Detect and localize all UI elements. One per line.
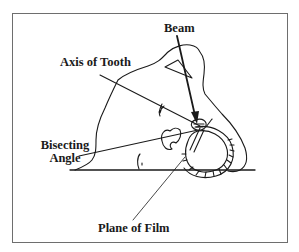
- film-tab: [206, 119, 212, 127]
- cheek-mark: [138, 154, 140, 169]
- axis-of-tooth-label: Axis of Tooth: [60, 56, 131, 69]
- plane-of-film-label: Plane of Film: [98, 222, 170, 235]
- bisecting-angle-label-line2: Angle: [40, 152, 90, 165]
- bisecting-angle-diagram: [0, 0, 299, 252]
- nose-outline: [165, 60, 192, 78]
- plane-of-film-line: [133, 157, 185, 220]
- beam-label: Beam: [164, 22, 195, 35]
- tooth: [191, 119, 206, 130]
- axis-of-tooth-line: [100, 75, 200, 126]
- jaw-arch: [186, 131, 228, 172]
- lip-shape: [162, 128, 181, 149]
- teeth-ticks: [182, 139, 234, 177]
- beam-line: [177, 36, 196, 120]
